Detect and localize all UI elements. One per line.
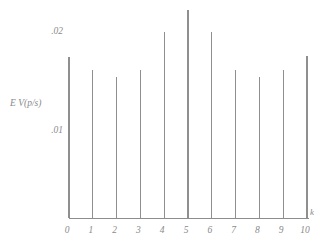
- x-tick-label: 3: [135, 225, 141, 235]
- x-tick-label: 10: [300, 225, 310, 235]
- y-tick-label-upper: .02: [51, 26, 63, 36]
- x-tick-label: 1: [88, 225, 93, 235]
- x-tick-label: 0: [65, 225, 70, 235]
- x-tick-label: 9: [279, 225, 284, 235]
- x-tick-label: 5: [184, 225, 189, 235]
- y-tick-label-lower: .01: [51, 125, 63, 135]
- stem-group: [69, 10, 307, 218]
- x-tick-label: 8: [255, 225, 260, 235]
- x-tick-label: 6: [207, 225, 212, 235]
- x-tick-label: 4: [160, 225, 165, 235]
- chart-canvas: 012345678910 .02 .01 E V(p/s) k: [0, 0, 323, 247]
- chart-figure: 012345678910 .02 .01 E V(p/s) k: [0, 0, 323, 247]
- x-tick-label: 2: [112, 225, 117, 235]
- x-tick-label-group: 012345678910: [65, 225, 310, 235]
- x-axis-title: k: [310, 207, 315, 217]
- x-tick-label: 7: [231, 225, 237, 235]
- y-axis-title: E V(p/s): [9, 98, 41, 109]
